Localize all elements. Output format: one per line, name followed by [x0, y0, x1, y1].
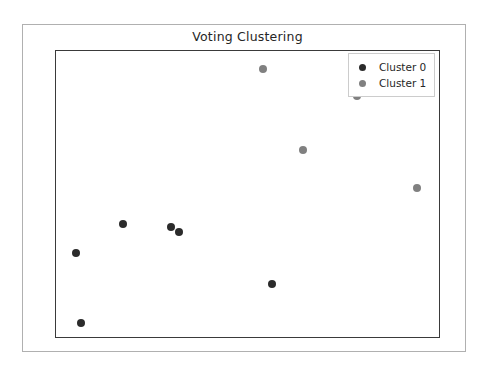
legend-marker-icon: [359, 80, 366, 87]
scatter-point: [77, 319, 85, 327]
scatter-point: [167, 223, 175, 231]
plot-area: Cluster 0 Cluster 1: [55, 50, 440, 338]
legend-marker-icon: [359, 64, 366, 71]
legend-item-cluster-1: Cluster 1: [355, 75, 426, 91]
scatter-point: [299, 146, 307, 154]
chart-legend: Cluster 0 Cluster 1: [348, 53, 435, 97]
scatter-point: [175, 228, 183, 236]
page-title: Voting Clustering: [55, 29, 440, 44]
scatter-point: [119, 220, 127, 228]
scatter-point: [259, 65, 267, 73]
legend-item-cluster-0: Cluster 0: [355, 59, 426, 75]
scatter-point: [72, 249, 80, 257]
scatter-point: [268, 280, 276, 288]
figure-canvas: Voting Clustering Cluster 0 Cluster 1: [0, 0, 488, 369]
legend-label: Cluster 0: [379, 61, 426, 73]
scatter-point: [413, 184, 421, 192]
legend-label: Cluster 1: [379, 77, 426, 89]
